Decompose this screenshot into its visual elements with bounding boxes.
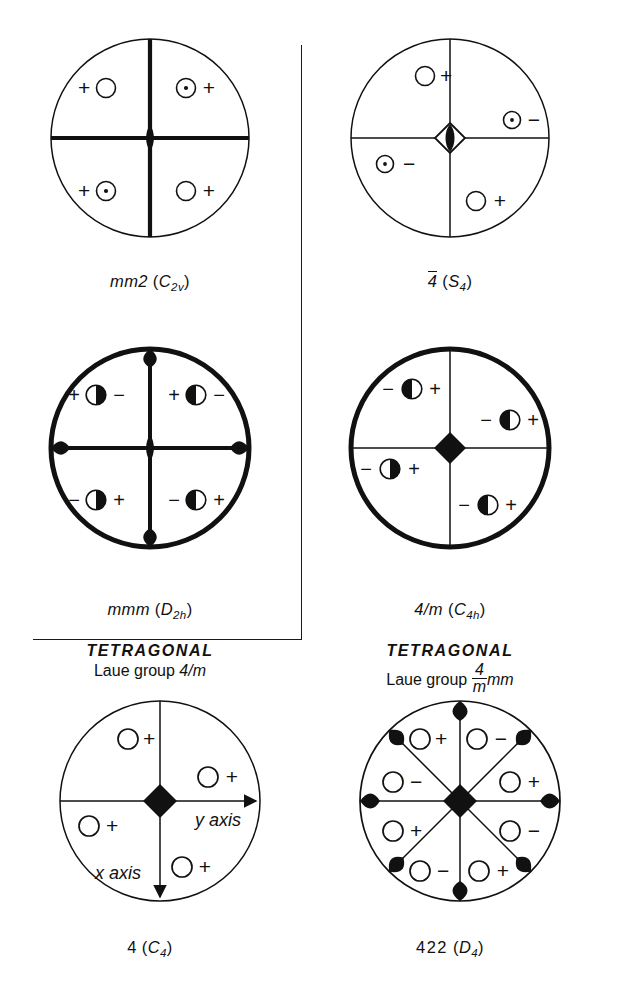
svg-text:+: + <box>199 855 211 878</box>
two-fold-axis-icon-bottom <box>143 528 157 547</box>
laue-left-system: TETRAGONAL <box>20 642 280 661</box>
svg-text:+: + <box>440 64 452 87</box>
svg-text:+: + <box>203 179 215 202</box>
svg-text:+: + <box>213 489 225 511</box>
laue-left-group: Laue group 4/m <box>20 662 280 681</box>
pole-n-right: − <box>467 727 507 750</box>
svg-text:+: + <box>78 76 90 99</box>
caption-mmm-schoenflies: D <box>161 600 173 618</box>
svg-text:−: − <box>403 152 415 175</box>
figure-root: + + + + mm2 (C2v) <box>0 0 620 998</box>
svg-text:−: − <box>410 770 422 793</box>
pole-n-left: + <box>410 727 447 750</box>
caption-minus4-paren-open: ( <box>437 272 448 290</box>
caption-422-paren-close: ) <box>478 938 484 956</box>
svg-text:+: + <box>410 819 422 842</box>
caption-mm2: mm2 (C2v) <box>20 272 280 293</box>
pole-upper-right: + − <box>168 384 225 406</box>
caption-4overm-paren-close: ) <box>480 600 486 618</box>
svg-text:−: − <box>528 108 540 131</box>
pole-left: − + <box>360 458 420 480</box>
caption-4-schoenflies-sub: 4 <box>160 947 167 959</box>
svg-text:+: + <box>168 384 180 406</box>
pole-lower-right: + <box>172 855 211 878</box>
caption-minus4-paren-close: ) <box>466 272 472 290</box>
four-fold-axis-icon <box>434 432 466 464</box>
svg-text:+: + <box>226 765 238 788</box>
two-fold-axis-icon-top <box>143 349 157 368</box>
stereogram-4overm-svg: − + − + − + − <box>345 338 555 558</box>
two-fold-axis-icon-bottom <box>453 881 468 901</box>
svg-text:+: + <box>528 770 540 793</box>
pole-left: − <box>377 152 416 175</box>
pole-w-upper: − <box>383 770 422 793</box>
laue-right-prefix: Laue group <box>386 671 471 688</box>
stereogram-mmm-svg: + − + − − + <box>45 338 255 558</box>
svg-text:−: − <box>480 409 492 431</box>
pole-upper-left: − + <box>382 378 441 400</box>
svg-text:+: + <box>113 489 125 511</box>
svg-text:−: − <box>168 489 180 511</box>
pole-s-left: − <box>410 859 449 882</box>
caption-mm2-paren-close: ) <box>184 272 190 290</box>
caption-4: 4 (C4) <box>20 938 280 959</box>
two-fold-axis-icon <box>146 125 154 151</box>
laue-right-suffix: mm <box>487 671 514 688</box>
stereogram-minus4: + − − + <box>345 28 555 248</box>
pole-s-right: + <box>469 859 509 882</box>
stereogram-4: + + + + y axis x axis <box>45 688 275 918</box>
stereogram-4overm: − + − + − + − <box>345 338 555 558</box>
svg-text:+: + <box>429 378 441 400</box>
caption-mm2-symbol: mm2 <box>110 272 148 290</box>
pole-upper-left: + <box>416 64 453 87</box>
laue-right-fraction-numerator: 4 <box>472 662 487 679</box>
caption-minus4: 4 (S4) <box>320 272 580 293</box>
two-fold-axis-icon-left <box>360 794 380 809</box>
caption-422: 422 (D4) <box>320 938 580 959</box>
svg-text:−: − <box>360 458 372 480</box>
svg-text:−: − <box>528 819 540 842</box>
pole-right: + <box>198 765 238 788</box>
caption-mmm-symbol: mmm <box>107 600 149 618</box>
pole-left: + <box>79 814 118 837</box>
axis-label-y: y axis <box>193 810 241 830</box>
stereogram-422-svg: + − − + + <box>345 688 575 918</box>
svg-text:−: − <box>458 494 470 516</box>
svg-text:−: − <box>213 384 225 406</box>
caption-mm2-paren-open: ( <box>148 272 159 290</box>
svg-text:+: + <box>435 727 447 750</box>
svg-text:+: + <box>527 409 539 431</box>
pole-right: − + <box>480 409 539 431</box>
caption-mm2-schoenflies-sub: 2v <box>171 281 184 293</box>
two-fold-axis-icon-left <box>51 441 70 455</box>
stereogram-minus4-svg: + − − + <box>345 28 555 248</box>
caption-4-paren-close: ) <box>167 938 173 956</box>
svg-text:+: + <box>505 494 517 516</box>
svg-text:−: − <box>68 489 80 511</box>
pole-upper-left: + <box>118 727 155 750</box>
svg-text:+: + <box>68 384 80 406</box>
svg-text:+: + <box>203 76 215 99</box>
pole-lower-left: + <box>78 179 116 202</box>
caption-mmm-schoenflies-sub: 2h <box>173 609 187 621</box>
stereogram-4-svg: + + + + y axis x axis <box>45 688 275 918</box>
axis-label-x: x axis <box>94 863 141 883</box>
pole-lower-right: + <box>467 189 507 212</box>
caption-mm2-schoenflies: C <box>159 272 171 290</box>
pole-e-lower: − <box>500 819 540 842</box>
pole-upper-left: + − <box>68 384 125 406</box>
pole-right: − <box>504 108 541 131</box>
svg-text:+: + <box>494 189 506 212</box>
svg-text:−: − <box>495 727 507 750</box>
stereogram-mm2-svg: + + + + <box>45 28 255 248</box>
pole-lower-right: − + <box>168 489 225 511</box>
laue-label-right: TETRAGONAL Laue group 4mmm <box>320 642 580 695</box>
caption-4overm: 4/m (C4h) <box>320 600 580 621</box>
pole-e-upper: + <box>500 770 540 793</box>
pole-w-lower: + <box>383 819 422 842</box>
laue-left-symbol: 4/m <box>179 662 206 679</box>
two-fold-axis-icon-right <box>540 794 560 809</box>
svg-text:−: − <box>382 378 394 400</box>
caption-4overm-symbol: 4/m <box>414 600 443 618</box>
caption-mmm-paren-close: ) <box>187 600 193 618</box>
